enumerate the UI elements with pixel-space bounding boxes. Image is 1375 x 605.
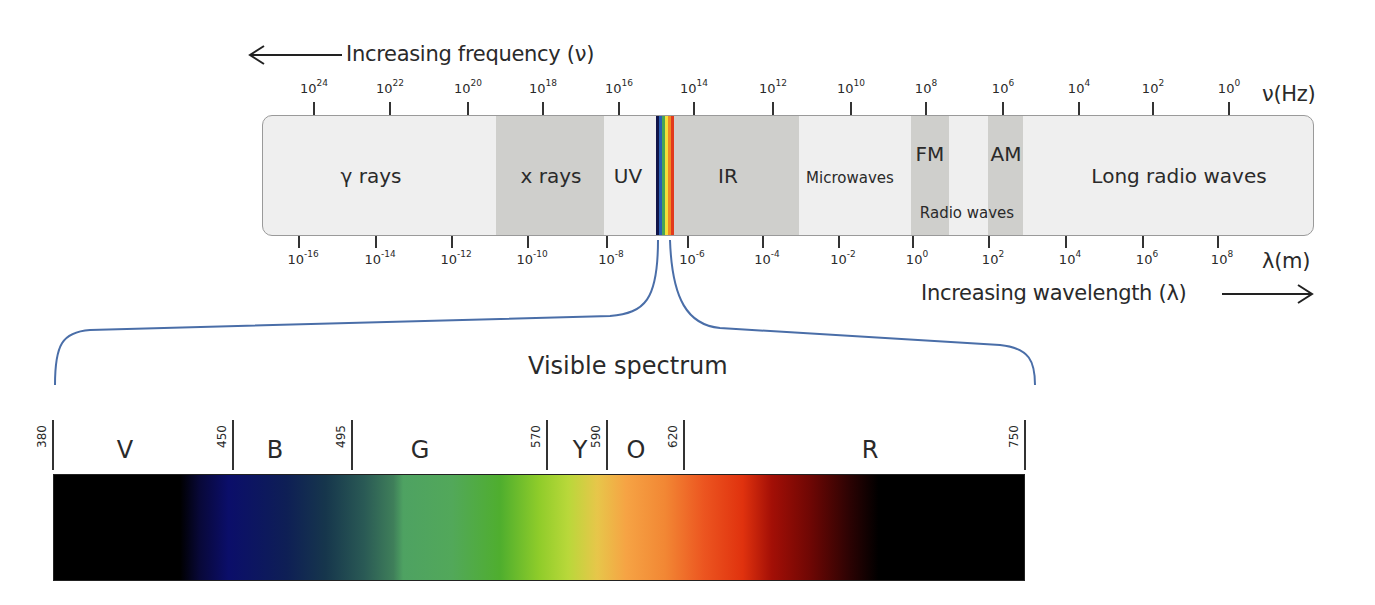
wavelength-tick bbox=[912, 236, 914, 248]
region-label: AM bbox=[991, 142, 1022, 166]
frequency-tick bbox=[1152, 102, 1154, 115]
wavelength-tick bbox=[1142, 236, 1144, 248]
wavelength-tick bbox=[762, 236, 764, 248]
frequency-tick-label: 1024 bbox=[300, 80, 328, 96]
wavelength-boundary-line bbox=[232, 420, 234, 470]
frequency-tick-label: 1020 bbox=[454, 80, 482, 96]
frequency-tick bbox=[467, 102, 469, 115]
wavelength-tick-label: 104 bbox=[1059, 251, 1081, 267]
wavelength-tick-label: 10-16 bbox=[287, 251, 318, 267]
wavelength-tick-label: 108 bbox=[1211, 251, 1233, 267]
wavelength-tick bbox=[838, 236, 840, 248]
color-band-letter: O bbox=[627, 436, 646, 464]
wavelength-boundary-line bbox=[351, 420, 353, 470]
color-band-letter: B bbox=[267, 436, 283, 464]
frequency-tick bbox=[693, 102, 695, 115]
wavelength-boundary-label: 380 bbox=[35, 425, 49, 448]
wavelength-tick bbox=[1065, 236, 1067, 248]
region-label: Long radio waves bbox=[1091, 164, 1266, 188]
wavelength-tick-label: 10-10 bbox=[516, 251, 547, 267]
frequency-tick-label: 100 bbox=[1218, 80, 1240, 96]
frequency-tick bbox=[542, 102, 544, 115]
frequency-axis-title: Increasing frequency (ν) bbox=[346, 42, 594, 66]
frequency-tick-label: 1010 bbox=[837, 80, 865, 96]
frequency-tick bbox=[925, 102, 927, 115]
wavelength-boundary-line bbox=[683, 420, 685, 470]
wavelength-tick bbox=[606, 236, 608, 248]
frequency-tick bbox=[618, 102, 620, 115]
frequency-tick-label: 1018 bbox=[529, 80, 557, 96]
frequency-tick-label: 1014 bbox=[680, 80, 708, 96]
wavelength-tick-label: 102 bbox=[982, 251, 1004, 267]
region-label: Radio waves bbox=[920, 204, 1014, 222]
frequency-arrow-icon bbox=[250, 46, 342, 64]
wavelength-tick-label: 10-4 bbox=[754, 251, 780, 267]
visible-light-strip bbox=[656, 116, 674, 235]
frequency-tick-label: 1022 bbox=[376, 80, 404, 96]
wavelength-tick-label: 100 bbox=[906, 251, 928, 267]
frequency-tick bbox=[772, 102, 774, 115]
wavelength-boundary-label: 495 bbox=[334, 425, 348, 448]
wavelength-boundary-label: 620 bbox=[666, 425, 680, 448]
wavelength-tick bbox=[1217, 236, 1219, 248]
wavelength-boundary-line bbox=[546, 420, 548, 470]
color-band-letter: R bbox=[862, 436, 879, 464]
region-label: UV bbox=[614, 164, 642, 188]
frequency-tick-label: 102 bbox=[1142, 80, 1164, 96]
frequency-tick-label: 104 bbox=[1068, 80, 1090, 96]
wavelength-boundary-line bbox=[1024, 420, 1026, 470]
wavelength-tick bbox=[988, 236, 990, 248]
wavelength-boundary-label: 450 bbox=[215, 425, 229, 448]
wavelength-tick bbox=[527, 236, 529, 248]
wavelength-boundary-label: 570 bbox=[529, 425, 543, 448]
frequency-tick bbox=[389, 102, 391, 115]
wavelength-tick bbox=[298, 236, 300, 248]
frequency-tick-label: 1016 bbox=[605, 80, 633, 96]
wavelength-tick-label: 10-8 bbox=[598, 251, 624, 267]
frequency-tick bbox=[1002, 102, 1004, 115]
frequency-unit-label: ν(Hz) bbox=[1262, 82, 1315, 106]
frequency-tick bbox=[313, 102, 315, 115]
visible-spectrum-title: Visible spectrum bbox=[528, 352, 728, 380]
wavelength-tick-label: 106 bbox=[1136, 251, 1158, 267]
region-label: Microwaves bbox=[806, 169, 894, 187]
frequency-tick-label: 1012 bbox=[759, 80, 787, 96]
wavelength-tick-label: 10-6 bbox=[679, 251, 705, 267]
region-label: γ rays bbox=[341, 164, 402, 188]
frequency-tick bbox=[850, 102, 852, 115]
color-band-letter: Y bbox=[573, 436, 588, 464]
frequency-tick-label: 106 bbox=[992, 80, 1014, 96]
wavelength-tick-label: 10-14 bbox=[364, 251, 395, 267]
wavelength-boundary-label: 750 bbox=[1007, 425, 1021, 448]
wavelength-unit-label: λ(m) bbox=[1262, 249, 1310, 273]
wavelength-boundary-label: 590 bbox=[589, 425, 603, 448]
region-label: FM bbox=[916, 142, 945, 166]
region-label: IR bbox=[718, 164, 738, 188]
wavelength-tick bbox=[687, 236, 689, 248]
wavelength-boundary-line bbox=[52, 420, 54, 470]
region-label: x rays bbox=[521, 164, 582, 188]
wavelength-axis-title: Increasing wavelength (λ) bbox=[921, 281, 1186, 305]
color-band-letter: G bbox=[411, 436, 430, 464]
frequency-tick bbox=[1228, 102, 1230, 115]
frequency-tick-label: 108 bbox=[915, 80, 937, 96]
wavelength-tick-label: 10-12 bbox=[440, 251, 471, 267]
visible-spectrum-bar bbox=[53, 474, 1025, 581]
wavelength-tick bbox=[451, 236, 453, 248]
wavelength-tick bbox=[375, 236, 377, 248]
em-spectrum-bar: γ raysx raysUVIRMicrowavesFMAMRadio wave… bbox=[262, 115, 1314, 236]
wavelength-arrow-icon bbox=[1222, 285, 1312, 303]
wavelength-tick-label: 10-2 bbox=[830, 251, 856, 267]
wavelength-boundary-line bbox=[606, 420, 608, 470]
frequency-tick bbox=[1078, 102, 1080, 115]
color-band-letter: V bbox=[117, 436, 133, 464]
